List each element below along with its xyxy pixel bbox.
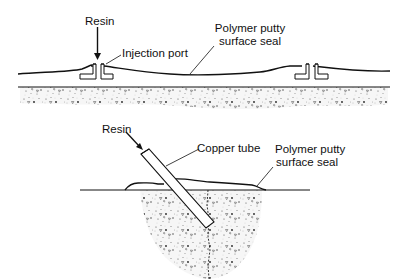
bottom-resin-label: Resin <box>102 123 131 136</box>
seal-leader-top <box>190 46 214 74</box>
concrete-body <box>140 190 262 279</box>
top-resin-label: Resin <box>85 15 114 28</box>
copper-tube-leader <box>166 149 199 166</box>
injection-port-label: Injection port <box>122 47 188 60</box>
top-seal-label-line1: Polymer putty <box>200 22 300 35</box>
putty-surface-seal <box>18 65 390 75</box>
bottom-seal-label-line1: Polymer putty <box>275 143 345 156</box>
copper-tube-label: Copper tube <box>197 142 260 155</box>
top-seal-label-line2: surface seal <box>200 35 300 48</box>
seal-leader-bottom <box>257 167 273 186</box>
bottom-seal-label-line2: surface seal <box>276 156 338 169</box>
bottom-putty-seal <box>125 179 266 190</box>
injection-port-leader <box>106 55 121 64</box>
concrete-slab <box>20 87 388 109</box>
resin-arrow-icon <box>94 27 101 60</box>
